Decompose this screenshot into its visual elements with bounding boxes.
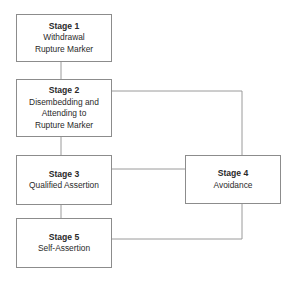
stage-3-title: Stage 3	[49, 169, 80, 181]
stage-2-line-2: Attending to	[42, 108, 87, 120]
stage-2-line-1: Disembedding and	[29, 97, 99, 109]
stage-1-box: Stage 1 Withdrawal Rupture Marker	[16, 14, 112, 62]
stage-5-line-1: Self-Assertion	[38, 243, 90, 255]
stage-4-line-1: Avoidance	[214, 180, 253, 192]
edge-stage2-stage4	[112, 91, 242, 155]
stage-5-title: Stage 5	[49, 232, 80, 244]
stage-3-line-1: Qualified Assertion	[29, 180, 99, 192]
stage-2-title: Stage 2	[49, 85, 80, 97]
stage-1-line-2: Rupture Marker	[35, 44, 93, 56]
edge-stage4-stage5	[112, 204, 242, 239]
stage-4-box: Stage 4 Avoidance	[185, 155, 281, 204]
stage-1-line-1: Withdrawal	[43, 32, 84, 44]
stage-1-title: Stage 1	[49, 21, 80, 33]
stage-2-box: Stage 2 Disembedding and Attending to Ru…	[16, 79, 112, 137]
stage-4-title: Stage 4	[218, 168, 249, 180]
stage-2-line-3: Rupture Marker	[35, 120, 93, 132]
stage-3-box: Stage 3 Qualified Assertion	[16, 155, 112, 205]
stage-5-box: Stage 5 Self-Assertion	[16, 218, 112, 268]
